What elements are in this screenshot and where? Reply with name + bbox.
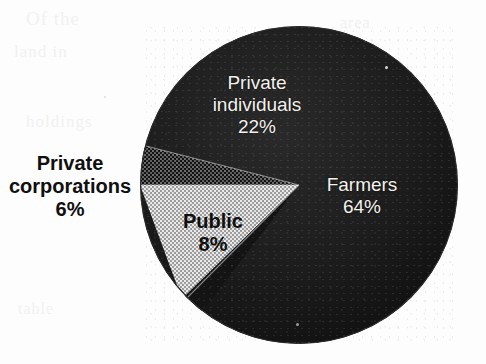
pie-label-private-corporations-line2: corporations [9,175,131,197]
pie-label-private-corporations-value: 6% [2,198,138,221]
pie-label-private-individuals[interactable]: Private individuals 22% [186,72,328,138]
scan-ghost-text: Of the [26,8,80,30]
pie-label-private-corporations-line1: Private [37,152,104,174]
pie-label-public-line1: Public [183,210,243,232]
chart-page: Of the land in holdings area table [0,0,486,364]
pie-label-farmers-line1: Farmers [327,174,398,195]
pie-label-farmers[interactable]: Farmers 64% [310,174,414,218]
pie-label-private-individuals-value: 22% [186,116,328,138]
scan-speck [104,96,106,98]
pie-label-public-value: 8% [168,233,258,256]
scan-ghost-text: land in [14,42,68,62]
pie-label-farmers-value: 64% [310,196,414,218]
scan-ghost-text: holdings [26,112,93,132]
pie-label-public[interactable]: Public 8% [168,210,258,256]
pie-label-private-corporations[interactable]: Private corporations 6% [2,152,138,222]
scan-ghost-text: table [18,300,54,318]
pie-label-private-individuals-line2: individuals [213,94,302,115]
pie-label-private-individuals-line1: Private [227,72,286,93]
